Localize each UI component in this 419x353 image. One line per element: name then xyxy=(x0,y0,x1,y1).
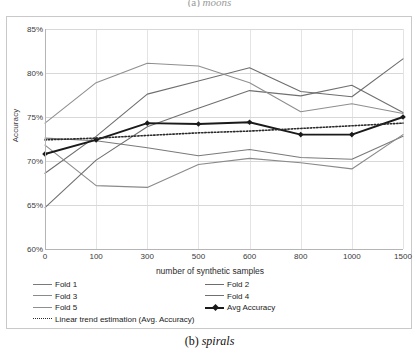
y-axis-tick-labels: 60%65%70%75%80%85% xyxy=(19,17,43,249)
legend-item[interactable]: Fold 4 xyxy=(205,291,249,302)
y-tick-label: 80% xyxy=(27,69,43,78)
series-marker xyxy=(196,121,202,127)
series-line xyxy=(45,135,403,188)
legend-item[interactable]: Avg Accuracy xyxy=(205,302,275,313)
legend-item[interactable]: Fold 2 xyxy=(205,279,249,290)
x-tick-label: 1500 xyxy=(394,252,412,261)
bottom-caption-prefix: (b) xyxy=(185,334,199,348)
legend-item-label: Fold 4 xyxy=(227,292,249,301)
legend-item[interactable]: Fold 1 xyxy=(33,279,77,290)
legend-item-label: Avg Accuracy xyxy=(227,303,275,312)
series-line xyxy=(45,63,403,123)
plot-area xyxy=(45,29,403,249)
vertical-gridline xyxy=(403,29,404,249)
top-caption-prefix: (a) xyxy=(188,0,200,7)
legend-item-label: Linear trend estimation (Avg. Accuracy) xyxy=(55,315,194,324)
x-tick-label: 100 xyxy=(89,252,102,261)
series-line xyxy=(45,117,403,154)
figure-panel: Accuracy 60%65%70%75%80%85% 010030050060… xyxy=(6,16,412,329)
legend-item-label: Fold 3 xyxy=(55,292,77,301)
x-tick-label: 1000 xyxy=(343,252,361,261)
x-tick-label: 300 xyxy=(141,252,154,261)
series-marker xyxy=(349,132,355,138)
chart-legend: Fold 1Fold 2Fold 3Fold 4Fold 5Avg Accura… xyxy=(7,279,413,329)
plot-wrapper: Accuracy 60%65%70%75%80%85% 010030050060… xyxy=(7,17,413,275)
x-tick-label: 500 xyxy=(192,252,205,261)
y-tick-label: 75% xyxy=(27,113,43,122)
series-marker xyxy=(298,132,304,138)
x-axis-title: number of synthetic samples xyxy=(7,266,413,276)
x-axis-tick-labels: 010030050060080010001500 xyxy=(45,252,403,264)
bottom-caption-name: spirals xyxy=(202,334,235,348)
series-marker xyxy=(400,114,406,120)
series-line xyxy=(45,59,403,173)
bottom-figure-caption: (b) spirals xyxy=(0,334,419,349)
legend-item-label: Fold 1 xyxy=(55,280,77,289)
y-axis-line xyxy=(45,29,46,249)
series-line xyxy=(45,123,403,140)
legend-item-label: Fold 2 xyxy=(227,280,249,289)
top-figure-caption: (a) moons xyxy=(0,0,419,7)
series-canvas xyxy=(45,29,403,249)
y-tick-label: 65% xyxy=(27,201,43,210)
x-tick-label: 600 xyxy=(243,252,256,261)
y-tick-label: 85% xyxy=(27,25,43,34)
legend-item-label: Fold 5 xyxy=(55,303,77,312)
series-marker xyxy=(144,120,150,126)
legend-item[interactable]: Fold 5 xyxy=(33,302,77,313)
top-caption-name: moons xyxy=(203,0,232,7)
x-tick-label: 800 xyxy=(294,252,307,261)
x-axis-line xyxy=(45,249,403,250)
legend-item[interactable]: Linear trend estimation (Avg. Accuracy) xyxy=(33,314,194,325)
y-tick-label: 60% xyxy=(27,245,43,254)
legend-item[interactable]: Fold 3 xyxy=(33,291,77,302)
x-tick-label: 0 xyxy=(43,252,47,261)
series-marker xyxy=(247,119,253,125)
y-tick-label: 70% xyxy=(27,157,43,166)
